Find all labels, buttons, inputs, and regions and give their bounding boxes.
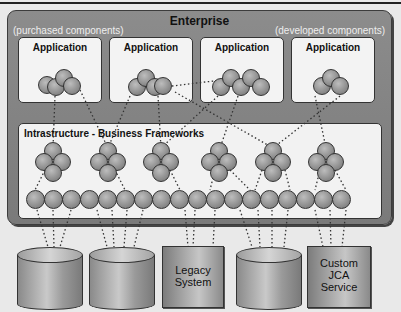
jca-label-line3: Service — [308, 281, 370, 293]
jca-label-line1: Custom — [308, 257, 370, 269]
custom-jca-service-box: Custom JCA Service — [307, 246, 371, 308]
jca-label-line2: JCA — [308, 269, 370, 281]
legacy-label-line2: System — [163, 276, 223, 288]
legacy-system-box: Legacy System — [162, 246, 224, 308]
legacy-label-line1: Legacy — [163, 264, 223, 276]
